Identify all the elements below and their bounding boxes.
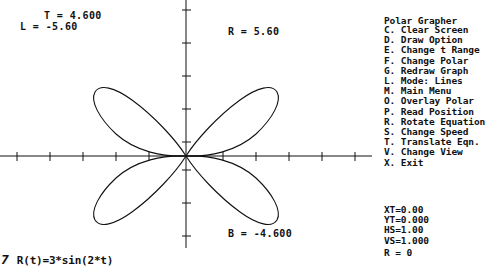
status-v-scale: VS=1.000: [384, 236, 429, 246]
status-list: XT=0.00 YT=0.000 HS=1.00 VS=1.000: [384, 205, 429, 246]
graph-panel[interactable]: T = 4.600 L = -5.60 R = 5.60 B = -4.600: [0, 0, 372, 248]
equation-marker-icon: 7: [1, 252, 9, 267]
b-range-label: B = -4.600: [228, 228, 292, 239]
menu-item-exit[interactable]: X. Exit: [384, 158, 485, 168]
l-range-label: L = -5.60: [20, 21, 78, 32]
equation-bar[interactable]: 7 R(t)=3*sin(2*t): [0, 248, 372, 272]
polar-plot[interactable]: [0, 0, 372, 248]
t-range-label: T = 4.600: [44, 10, 102, 21]
menu-list: C. Clear Screen D. Draw Option E. Change…: [384, 25, 485, 168]
status-rotation: R = 0: [384, 247, 412, 258]
menu-panel: Polar Grapher C. Clear Screen D. Draw Op…: [384, 0, 500, 272]
r-range-label: R = 5.60: [228, 26, 279, 37]
polar-grapher-screen: T = 4.600 L = -5.60 R = 5.60 B = -4.600 …: [0, 0, 500, 272]
equation-text: R(t)=3*sin(2*t): [17, 254, 113, 267]
